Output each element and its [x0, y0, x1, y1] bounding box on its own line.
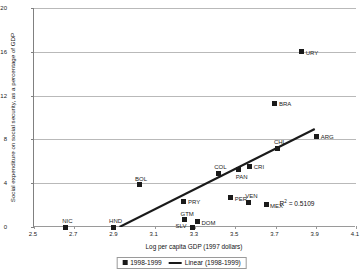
x-axis-tick: [74, 226, 75, 229]
x-axis-tick-label: 3.3: [182, 231, 206, 237]
x-axis-title: Log per capita GDP (1997 dollars): [33, 243, 355, 250]
data-point: [137, 182, 142, 187]
y-axis-tick-label: 4: [0, 180, 7, 186]
data-point: [216, 171, 221, 176]
gridline: [34, 139, 356, 140]
x-axis-tick-label: 2.7: [61, 231, 85, 237]
x-axis-tick: [356, 226, 357, 229]
x-axis-tick-label: 3.9: [303, 231, 327, 237]
data-point-label: COL: [214, 164, 226, 170]
data-point-label: URY: [306, 50, 319, 56]
plot-area: NICHNDBOLGTMSLVPRYDOMCOLPERVENPANCRIMEXC…: [33, 8, 355, 227]
y-axis-tick: [31, 139, 34, 140]
linear-trendline: [34, 8, 356, 227]
data-point-label: PAN: [236, 174, 248, 180]
gridline: [34, 183, 356, 184]
y-axis-tick-label: 20: [0, 5, 7, 11]
square-marker-icon: [122, 260, 127, 265]
y-axis-tick-label: 16: [0, 49, 7, 55]
data-point-label: BOL: [135, 176, 147, 182]
x-axis-tick: [195, 226, 196, 229]
x-axis-tick-label: 3.5: [222, 231, 246, 237]
y-axis-tick: [31, 52, 34, 53]
data-point-label: ARG: [321, 134, 334, 140]
data-point: [195, 219, 200, 224]
legend-label-trendline: Linear (1998-1999): [185, 259, 241, 266]
y-axis-tick: [31, 96, 34, 97]
data-point: [246, 200, 251, 205]
legend-label-series: 1998-1999: [130, 259, 162, 266]
legend-item-series: 1998-1999: [122, 259, 162, 266]
x-axis-tick: [316, 226, 317, 229]
legend-item-trendline: Linear (1998-1999): [169, 259, 241, 266]
gridline: [34, 8, 356, 9]
r-squared-annotation: R2 = 0.5109: [280, 199, 315, 207]
data-point-label: SLV: [176, 223, 187, 229]
y-axis-tick: [31, 8, 34, 9]
line-marker-icon: [169, 262, 182, 264]
data-point: [236, 167, 241, 172]
data-point-label: CHL: [274, 139, 286, 145]
data-point-label: NIC: [62, 218, 72, 224]
data-point: [190, 225, 195, 230]
x-axis-tick-label: 2.5: [21, 231, 45, 237]
y-axis-tick-label: 12: [0, 93, 7, 99]
data-point: [272, 101, 277, 106]
y-axis-tick-label: 0: [0, 224, 7, 230]
data-point: [275, 146, 280, 151]
x-axis-tick: [155, 226, 156, 229]
x-axis-tick: [34, 226, 35, 229]
x-axis-tick: [235, 226, 236, 229]
data-point: [111, 225, 116, 230]
data-point: [63, 225, 68, 230]
data-point: [264, 202, 269, 207]
gridline: [34, 96, 356, 97]
x-axis-tick-label: 3.1: [142, 231, 166, 237]
scatter-chart: Social expenditure on social security, a…: [0, 0, 363, 276]
data-point: [228, 195, 233, 200]
data-point-label: VEN: [245, 193, 257, 199]
data-point: [314, 134, 319, 139]
data-point: [182, 217, 187, 222]
x-axis-tick: [276, 226, 277, 229]
y-axis-tick: [31, 183, 34, 184]
data-point: [247, 164, 252, 169]
chart-legend: 1998-1999 Linear (1998-1999): [116, 257, 247, 269]
data-point-label: HND: [109, 218, 122, 224]
data-point-label: BRA: [279, 101, 291, 107]
data-point: [299, 49, 304, 54]
data-point: [181, 199, 186, 204]
data-point-label: PRY: [188, 199, 200, 205]
data-point-label: DOM: [201, 220, 215, 226]
x-axis-tick-label: 3.7: [263, 231, 287, 237]
x-axis-tick-label: 2.9: [102, 231, 126, 237]
data-point-label: CRI: [254, 164, 264, 170]
y-axis-tick-label: 8: [0, 136, 7, 142]
x-axis-tick-label: 4.1: [343, 231, 363, 237]
y-axis-title: Social expenditure on social security, a…: [7, 8, 19, 227]
data-point-label: GTM: [181, 211, 194, 217]
